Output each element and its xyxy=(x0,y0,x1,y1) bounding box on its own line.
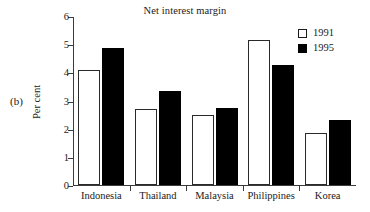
x-tick-mark xyxy=(130,186,131,191)
bar-thailand-1995 xyxy=(159,91,181,185)
y-tick-label: 3 xyxy=(64,96,69,107)
y-tick-label: 1 xyxy=(64,153,69,164)
legend-item-1995: 1995 xyxy=(298,42,334,55)
legend-swatch-1991 xyxy=(298,29,307,38)
figure-panel-b: (b) Net interest margin Per cent 0123456… xyxy=(0,0,370,212)
category-label-korea: Korea xyxy=(315,191,341,202)
bar-indonesia-1995 xyxy=(102,48,124,185)
category-label-malaysia: Malaysia xyxy=(195,191,234,202)
y-tick-label: 2 xyxy=(64,124,69,135)
legend-label-1991: 1991 xyxy=(313,28,334,39)
x-tick-mark xyxy=(243,186,244,191)
chart-title: Net interest margin xyxy=(0,5,370,17)
legend-label-1995: 1995 xyxy=(313,43,334,54)
y-tick-label: 0 xyxy=(64,181,69,192)
bar-indonesia-1991 xyxy=(78,70,100,185)
y-axis-line xyxy=(73,17,74,186)
bar-korea-1991 xyxy=(305,133,327,185)
bar-korea-1995 xyxy=(329,120,351,185)
bar-philippines-1995 xyxy=(272,65,294,185)
panel-letter: (b) xyxy=(10,96,23,107)
category-label-thailand: Thailand xyxy=(139,191,176,202)
x-axis-line xyxy=(73,185,356,186)
category-label-philippines: Philippines xyxy=(247,191,294,202)
bar-malaysia-1991 xyxy=(192,115,214,185)
x-tick-mark xyxy=(186,186,187,191)
bar-malaysia-1995 xyxy=(216,108,238,185)
bar-thailand-1991 xyxy=(135,109,157,185)
x-tick-mark xyxy=(299,186,300,191)
legend-item-1991: 1991 xyxy=(298,27,334,40)
y-axis-label: Per cent xyxy=(32,85,43,119)
y-tick-label: 6 xyxy=(64,12,69,23)
category-label-indonesia: Indonesia xyxy=(81,191,122,202)
legend-swatch-1995 xyxy=(298,44,307,53)
bar-philippines-1991 xyxy=(248,40,270,185)
y-tick-label: 4 xyxy=(64,68,69,79)
y-tick-label: 5 xyxy=(64,40,69,51)
chart-legend: 19911995 xyxy=(298,27,334,57)
